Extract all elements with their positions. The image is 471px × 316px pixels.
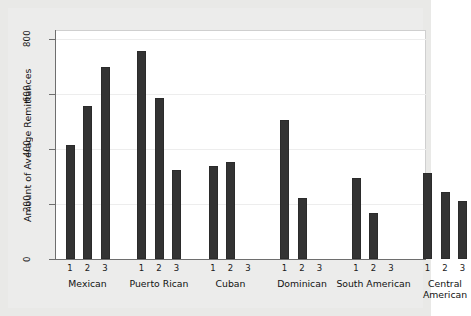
x-tick-label: 3 xyxy=(98,264,112,273)
x-tick-label: 2 xyxy=(438,264,452,273)
bar xyxy=(298,198,307,259)
bar xyxy=(66,145,75,259)
gridline xyxy=(56,149,426,150)
y-axis-title: Amount of Average Remittances xyxy=(20,30,34,260)
bar xyxy=(423,173,432,259)
x-tick-label: 2 xyxy=(224,264,238,273)
x-tick-label: 3 xyxy=(241,264,255,273)
bar xyxy=(155,98,164,259)
bar xyxy=(226,162,235,259)
x-tick-label: 2 xyxy=(367,264,381,273)
y-axis-line xyxy=(55,30,56,260)
bar xyxy=(441,192,450,259)
x-tick-label: 2 xyxy=(295,264,309,273)
x-tick-label: 1 xyxy=(206,264,220,273)
bar xyxy=(101,67,110,259)
bar xyxy=(458,201,467,259)
gridline xyxy=(56,204,426,205)
bar xyxy=(172,170,181,259)
x-tick-label: 3 xyxy=(456,264,470,273)
x-tick-label: 3 xyxy=(313,264,327,273)
x-group-label: Dominican xyxy=(262,278,342,289)
x-tick-label: 1 xyxy=(349,264,363,273)
gridline xyxy=(56,94,426,95)
x-group-label: Puerto Rican xyxy=(119,278,199,289)
x-tick-label: 2 xyxy=(152,264,166,273)
bar xyxy=(280,120,289,259)
figure-canvas: 0200400600800 Amount of Average Remittan… xyxy=(8,8,423,308)
bar xyxy=(369,213,378,259)
bar xyxy=(209,166,218,260)
bar xyxy=(352,178,361,259)
x-tick-label: 1 xyxy=(278,264,292,273)
x-tick-label: 1 xyxy=(63,264,77,273)
x-group-label: Mexican xyxy=(48,278,128,289)
gridline xyxy=(56,39,426,40)
x-tick-label: 2 xyxy=(81,264,95,273)
x-tick-label: 3 xyxy=(170,264,184,273)
bar xyxy=(137,51,146,259)
x-group-label: South American xyxy=(334,278,414,289)
bar xyxy=(83,106,92,259)
x-axis-line xyxy=(55,259,426,260)
x-group-label: Central American xyxy=(405,278,471,300)
x-tick-label: 1 xyxy=(421,264,435,273)
x-tick-label: 3 xyxy=(384,264,398,273)
x-tick-label: 1 xyxy=(135,264,149,273)
x-group-label: Cuban xyxy=(191,278,271,289)
